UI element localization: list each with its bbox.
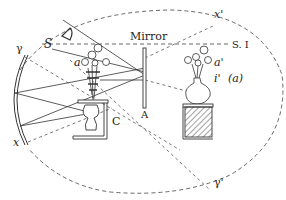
label-gamma: γ <box>16 42 23 55</box>
image-vase <box>185 46 212 104</box>
box-c <box>73 100 108 139</box>
label-i-prime-paren: (a) <box>228 72 243 85</box>
label-i-prime: i' <box>214 72 221 85</box>
plane-mirror-a <box>143 48 146 108</box>
diagram-canvas: Mirror S S. I γ γ' x x' a a' i' (a) C A <box>0 0 286 200</box>
label-gamma-prime: γ' <box>214 176 224 189</box>
label-x: x <box>13 136 20 149</box>
label-a-mirror: A <box>140 109 149 120</box>
eye-icon <box>62 28 72 40</box>
hatched-stand <box>183 104 213 139</box>
label-c: C <box>112 115 120 128</box>
light-rays <box>15 20 145 126</box>
label-si: S. I <box>232 39 249 50</box>
label-x-prime: x' <box>214 8 223 21</box>
label-a-prime: a' <box>214 56 224 69</box>
optics-diagram: Mirror S S. I γ γ' x x' a a' i' (a) C A <box>0 0 286 200</box>
label-mirror: Mirror <box>130 30 168 43</box>
label-a: a <box>74 56 81 69</box>
label-s: S <box>44 37 52 51</box>
